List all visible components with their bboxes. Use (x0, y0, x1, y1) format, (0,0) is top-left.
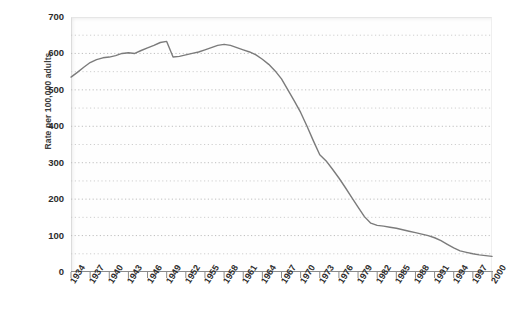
x-tick-label-1982: 1982 (374, 263, 393, 285)
x-tick-label-1964: 1964 (259, 263, 278, 285)
line-chart: Rate per 100,000 adults 7006005004003002… (0, 0, 507, 322)
x-tick-label-1991: 1991 (432, 263, 451, 285)
x-tick-label-1955: 1955 (202, 263, 221, 285)
x-axis-tick-labels: 1934193719401943194619491952195519581961… (0, 0, 507, 322)
x-tick-label-1997: 1997 (470, 263, 489, 285)
x-tick-label-1943: 1943 (125, 263, 144, 285)
x-tick-label-1961: 1961 (240, 263, 259, 285)
x-tick-label-1946: 1946 (145, 263, 164, 285)
x-tick-label-1994: 1994 (451, 263, 470, 285)
x-tick-label-1967: 1967 (279, 263, 298, 285)
x-tick-label-1970: 1970 (298, 263, 317, 285)
x-tick-label-1988: 1988 (412, 263, 431, 285)
x-tick-label-1940: 1940 (106, 263, 125, 285)
x-tick-label-1934: 1934 (68, 263, 87, 285)
x-tick-label-1937: 1937 (87, 263, 106, 285)
x-tick-label-1958: 1958 (221, 263, 240, 285)
x-tick-label-1985: 1985 (393, 263, 412, 285)
x-tick-label-1976: 1976 (336, 263, 355, 285)
x-tick-label-1949: 1949 (164, 263, 183, 285)
x-tick-label-1952: 1952 (183, 263, 202, 285)
x-tick-label-1973: 1973 (317, 263, 336, 285)
x-tick-label-1979: 1979 (355, 263, 374, 285)
x-tick-label-2000: 2000 (489, 263, 507, 285)
